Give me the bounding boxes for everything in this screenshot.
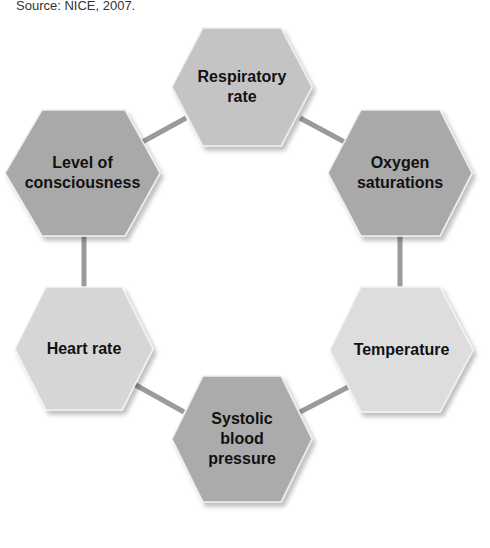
node-label-line: rate [227,88,256,105]
node-label-line: Oxygen [371,154,430,171]
node-oxygen-saturations: Oxygensaturations [328,110,472,236]
node-label-line: blood [220,430,264,447]
node-label-line: pressure [208,450,276,467]
node-temperature: Temperature [330,287,473,412]
node-respiratory-rate: Respiratoryrate [172,28,312,146]
node-heart-rate: Heart rate [15,287,153,410]
node-label-line: consciousness [25,174,141,191]
node-label-line: Temperature [354,341,450,358]
node-label-line: Level of [52,154,112,171]
node-systolic-blood-pressure: Systolicbloodpressure [172,376,312,502]
node-label-line: Respiratory [198,68,287,85]
node-label-line: saturations [357,174,443,191]
node-label-line: Systolic [211,410,272,427]
node-label-line: Heart rate [47,340,122,357]
node-level-of-consciousness: Level ofconsciousness [5,110,160,236]
